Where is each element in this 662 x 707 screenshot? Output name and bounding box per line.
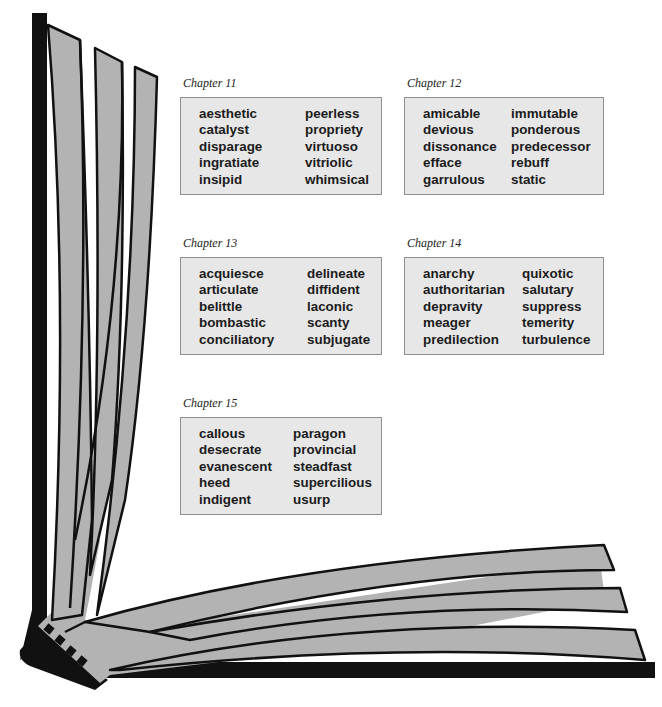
vocab-word: conciliatory [199,332,307,348]
vocab-word: predecessor [511,139,591,155]
vocab-word: vitriolic [305,155,369,171]
vocab-word: efface [423,155,511,171]
vocab-word: disparage [199,139,305,155]
vocab-word: insipid [199,172,305,188]
vocab-word: virtuoso [305,139,369,155]
chapter-11-panel: Chapter 11 aesthetic catalyst disparage … [180,76,382,195]
vocab-word: belittle [199,299,307,315]
vocab-word: evanescent [199,459,293,475]
vocab-word: quixotic [522,266,590,282]
vocab-word: peerless [305,106,369,122]
word-column-left: amicable devious dissonance efface garru… [423,106,511,194]
vocab-word: supercilious [293,475,372,491]
chapter-13-panel: Chapter 13 acquiesce articulate belittle… [180,236,382,355]
word-column-left: acquiesce articulate belittle bombastic … [199,266,307,354]
vocab-word: paragon [293,426,372,442]
vocab-word: catalyst [199,122,305,138]
chapter-label: Chapter 12 [407,76,604,90]
vocab-word: suppress [522,299,590,315]
word-column-right: delineate diffident laconic scanty subju… [307,266,370,354]
word-list-box: aesthetic catalyst disparage ingratiate … [180,97,382,195]
vocab-word: rebuff [511,155,591,171]
word-column-right: quixotic salutary suppress temerity turb… [522,266,590,354]
word-list-box: callous desecrate evanescent heed indige… [180,417,382,515]
vocab-word: dissonance [423,139,511,155]
chapter-15-panel: Chapter 15 callous desecrate evanescent … [180,396,382,515]
word-column-left: anarchy authoritarian depravity meager p… [423,266,522,354]
chapter-14-panel: Chapter 14 anarchy authoritarian depravi… [404,236,604,355]
vocab-word: turbulence [522,332,590,348]
vocab-word: garrulous [423,172,511,188]
vocab-word: diffident [307,282,370,298]
word-list-box: amicable devious dissonance efface garru… [404,97,604,195]
vocab-word: ingratiate [199,155,305,171]
word-column-left: aesthetic catalyst disparage ingratiate … [199,106,305,194]
vocab-word: devious [423,122,511,138]
vocab-word: static [511,172,591,188]
vocab-word: depravity [423,299,522,315]
vocab-word: indigent [199,492,293,508]
vocab-word: ponderous [511,122,591,138]
vocab-word: heed [199,475,293,491]
vocab-word: subjugate [307,332,370,348]
vocab-word: aesthetic [199,106,305,122]
word-column-right: peerless propriety virtuoso vitriolic wh… [305,106,369,194]
word-list-box: acquiesce articulate belittle bombastic … [180,257,382,355]
vocab-word: laconic [307,299,370,315]
vocab-word: authoritarian [423,282,522,298]
vocab-word: provincial [293,442,372,458]
vocab-word: articulate [199,282,307,298]
vocab-word: predilection [423,332,522,348]
vocab-word: temerity [522,315,590,331]
vocab-word: salutary [522,282,590,298]
vocab-word: desecrate [199,442,293,458]
vocab-word: delineate [307,266,370,282]
word-column-right: immutable ponderous predecessor rebuff s… [511,106,591,194]
vocab-word: immutable [511,106,591,122]
chapter-12-panel: Chapter 12 amicable devious dissonance e… [404,76,604,195]
vocab-word: propriety [305,122,369,138]
vocab-word: whimsical [305,172,369,188]
vocab-word: bombastic [199,315,307,331]
vocab-word: scanty [307,315,370,331]
chapter-label: Chapter 14 [407,236,604,250]
vocab-word: amicable [423,106,511,122]
word-list-box: anarchy authoritarian depravity meager p… [404,257,604,355]
chapter-label: Chapter 11 [183,76,382,90]
vocab-word: meager [423,315,522,331]
vocab-word: acquiesce [199,266,307,282]
chapter-label: Chapter 15 [183,396,382,410]
vocab-word: anarchy [423,266,522,282]
vertical-pages [48,25,157,620]
vocab-word: steadfast [293,459,372,475]
vocab-word: callous [199,426,293,442]
chapter-label: Chapter 13 [183,236,382,250]
vocab-word: usurp [293,492,372,508]
word-column-left: callous desecrate evanescent heed indige… [199,426,293,514]
word-column-right: paragon provincial steadfast superciliou… [293,426,372,514]
